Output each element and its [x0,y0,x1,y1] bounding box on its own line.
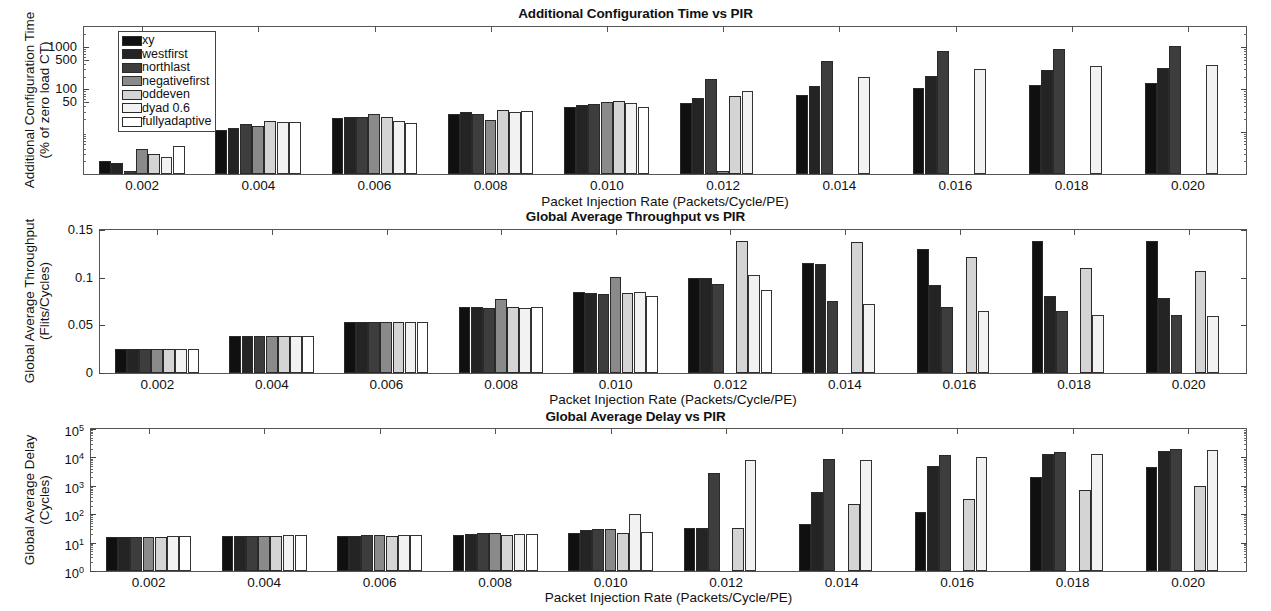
ytick-mark-global-average-delay-0 [90,571,96,572]
bar-global-average-delay-0.018-oddeven [1079,490,1091,571]
xtick-mark-global-average-delay-0.006 [380,428,381,434]
xtick-mark-global-average-delay-0.020 [1188,428,1189,434]
bar-global-average-delay-0.014-westfirst [811,492,823,571]
xtick-label-global-average-delay-0.014: 0.014 [802,575,882,590]
ytick-mark-right-global-average-delay-10000 [1241,457,1247,458]
bar-global-average-delay-0.002-dyad-0-6 [167,536,179,571]
ytick-minor-right-global-average-delay-2000 [1244,477,1247,478]
bar-global-average-delay-0.010-dyad-0-6 [629,514,641,571]
ytick-mark-right-global-average-delay-100 [1241,514,1247,515]
ytick-minor-right-global-average-delay-7 [1244,547,1247,548]
ytick-minor-right-global-average-delay-5000 [1244,466,1247,467]
bar-global-average-delay-0.020-oddeven [1194,486,1206,571]
ytick-minor-global-average-delay-50 [90,523,93,524]
legend-swatch-xy [122,36,142,46]
ytick-mark-global-average-delay-4 [90,457,96,458]
ytick-minor-right-global-average-delay-40 [1244,526,1247,527]
ytick-minor-right-global-average-delay-40000 [1244,440,1247,441]
xtick-label-global-average-delay-0.016: 0.016 [917,575,997,590]
bar-global-average-delay-0.014-dyad-0-6 [860,460,872,571]
ytick-minor-global-average-delay-700 [90,490,93,491]
ytick-minor-right-global-average-delay-8 [1244,545,1247,546]
ytick-minor-global-average-delay-30000 [90,444,93,445]
ytick-minor-right-global-average-delay-50000 [1244,438,1247,439]
ytick-minor-global-average-delay-80000 [90,432,93,433]
plot-area-global-average-delay [90,428,1247,572]
ytick-minor-right-global-average-delay-7000 [1244,462,1247,463]
ytick-minor-global-average-delay-7 [90,547,93,548]
xtick-mark-global-average-delay-0.004 [264,428,265,434]
bar-global-average-delay-0.002-negativefirst [143,537,155,571]
bar-global-average-delay-0.016-oddeven [963,499,975,571]
ytick-minor-global-average-delay-20 [90,534,93,535]
bar-global-average-delay-0.012-dyad-0-6 [745,460,757,571]
bar-global-average-delay-0.010-fullyadaptive [641,532,653,571]
legend-swatch-westfirst [122,49,142,59]
ytick-minor-global-average-delay-40000 [90,440,93,441]
bar-global-average-delay-0.010-westfirst [580,530,592,571]
bar-global-average-delay-0.010-xy [568,533,580,571]
ytick-minor-right-global-average-delay-700 [1244,490,1247,491]
ytick-minor-right-global-average-delay-80000 [1244,432,1247,433]
ytick-minor-right-global-average-delay-5 [1244,551,1247,552]
ytick-minor-right-global-average-delay-9 [1244,544,1247,545]
ytick-minor-global-average-delay-60 [90,521,93,522]
ytick-minor-global-average-delay-6 [90,549,93,550]
yaxis-title-line2-global-average-delay: (Cycles) [37,350,52,611]
bar-global-average-delay-0.002-westfirst [118,537,130,571]
ytick-minor-global-average-delay-2 [90,562,93,563]
xtick-label-global-average-delay-0.012: 0.012 [686,575,766,590]
bar-global-average-delay-0.008-oddeven [501,535,513,571]
bar-global-average-delay-0.002-xy [106,537,118,571]
bar-global-average-delay-0.004-northlast [246,536,258,571]
ytick-minor-global-average-delay-400 [90,497,93,498]
xtick-mark-global-average-delay-0.018 [1073,428,1074,434]
ytick-minor-right-global-average-delay-4 [1244,554,1247,555]
legend-swatch-oddeven [122,90,142,100]
ytick-minor-right-global-average-delay-60000 [1244,435,1247,436]
ytick-minor-global-average-delay-40 [90,526,93,527]
ytick-minor-global-average-delay-800 [90,489,93,490]
xtick-label-global-average-delay-0.018: 0.018 [1033,575,1113,590]
bar-global-average-delay-0.004-dyad-0-6 [283,535,295,571]
ytick-minor-right-global-average-delay-4000 [1244,469,1247,470]
xtick-label-global-average-delay-0.006: 0.006 [340,575,420,590]
ytick-mark-right-global-average-delay-10 [1241,543,1247,544]
bar-global-average-delay-0.002-fullyadaptive [179,536,191,571]
xtick-label-global-average-delay-0.002: 0.002 [109,575,189,590]
ytick-minor-global-average-delay-7000 [90,462,93,463]
bar-global-average-delay-0.004-westfirst [234,536,246,571]
figure-root: Additional Configuration Time vs PIR0.00… [0,0,1271,611]
ytick-minor-right-global-average-delay-9000 [1244,459,1247,460]
legend-item-fullyadaptive: fullyadaptive [122,115,212,129]
legend-item-oddeven: oddeven [122,88,212,102]
legend-swatch-fullyadaptive [122,117,142,127]
ytick-minor-global-average-delay-60000 [90,435,93,436]
ytick-minor-global-average-delay-8000 [90,460,93,461]
ytick-minor-global-average-delay-200 [90,506,93,507]
ytick-minor-global-average-delay-80 [90,517,93,518]
legend-label-negativefirst: negativefirst [142,75,209,89]
ytick-minor-right-global-average-delay-30 [1244,529,1247,530]
bar-global-average-delay-0.014-oddeven [848,504,860,571]
ytick-minor-right-global-average-delay-30000 [1244,444,1247,445]
bar-global-average-delay-0.016-northlast [939,455,951,571]
bar-global-average-delay-0.006-xy [337,536,349,571]
bar-global-average-delay-0.008-fullyadaptive [526,534,538,571]
bar-global-average-delay-0.004-fullyadaptive [295,535,307,571]
ytick-minor-global-average-delay-9000 [90,459,93,460]
legend-swatch-negativefirst [122,76,142,86]
ytick-minor-right-global-average-delay-50 [1244,523,1247,524]
ytick-minor-right-global-average-delay-400 [1244,497,1247,498]
bar-global-average-delay-0.010-northlast [592,529,604,571]
bar-global-average-delay-0.004-xy [222,536,234,571]
bar-global-average-delay-0.004-negativefirst [258,536,270,571]
ytick-minor-global-average-delay-900 [90,487,93,488]
bar-global-average-delay-0.002-oddeven [155,537,167,571]
ytick-minor-global-average-delay-20000 [90,449,93,450]
ytick-minor-right-global-average-delay-90 [1244,515,1247,516]
bar-global-average-delay-0.014-northlast [823,459,835,571]
bar-global-average-delay-0.016-dyad-0-6 [976,457,988,571]
ytick-minor-global-average-delay-50000 [90,438,93,439]
legend-item-xy: xy [122,34,212,48]
